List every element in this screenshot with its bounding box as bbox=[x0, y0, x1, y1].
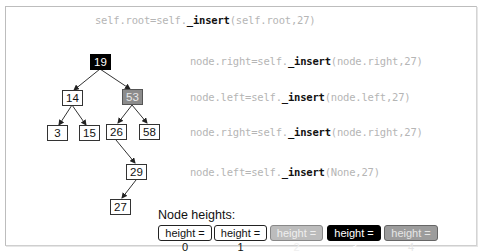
edge-53-58 bbox=[132, 105, 147, 123]
legend-height-4: height = 4 bbox=[384, 225, 438, 241]
legend-height-2: height = 2 bbox=[270, 225, 323, 241]
edge-29-27 bbox=[122, 180, 136, 198]
tree-node-14: 14 bbox=[62, 90, 83, 106]
tree-node-27: 27 bbox=[110, 199, 131, 215]
tree-node-58: 58 bbox=[139, 124, 160, 140]
edge-19-53 bbox=[100, 69, 130, 89]
tree-node-19: 19 bbox=[90, 54, 111, 70]
tree-node-26: 26 bbox=[106, 124, 127, 140]
legend-height-3: height = 3 bbox=[327, 225, 381, 241]
tree-node-53: 53 bbox=[122, 89, 143, 105]
legend-height-1: height = 1 bbox=[214, 225, 267, 241]
edge-53-26 bbox=[118, 105, 132, 123]
edge-19-14 bbox=[74, 69, 100, 90]
legend-title: Node heights: bbox=[158, 208, 235, 222]
tree-node-3: 3 bbox=[47, 125, 68, 141]
tree-node-15: 15 bbox=[79, 125, 100, 141]
tree-node-29: 29 bbox=[126, 164, 147, 180]
edge-14-15 bbox=[72, 105, 86, 125]
legend-height-0: height = 0 bbox=[158, 225, 212, 241]
tree-edges bbox=[0, 0, 483, 251]
edge-14-3 bbox=[59, 105, 72, 125]
edge-26-29 bbox=[116, 140, 135, 163]
